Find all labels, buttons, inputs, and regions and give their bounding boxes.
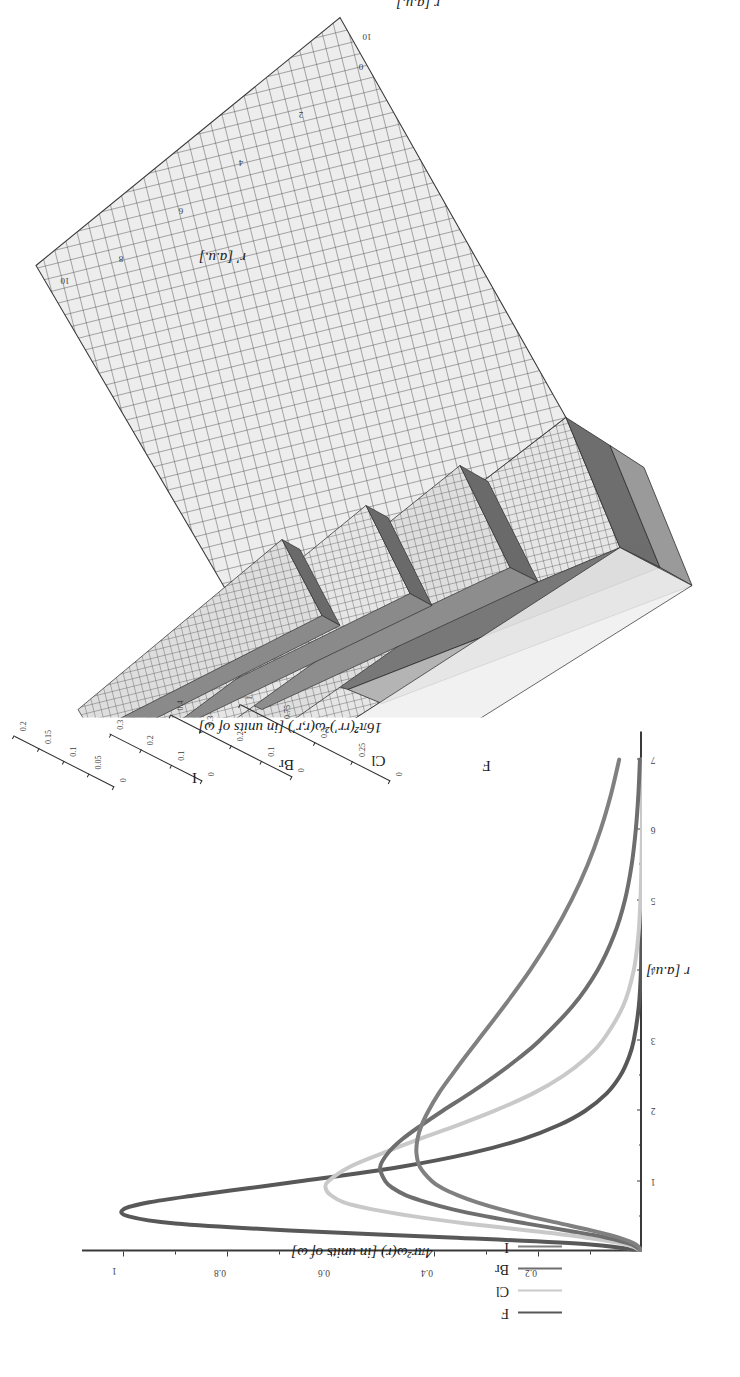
y-tick-label-1: 1 — [112, 1265, 134, 1275]
rprime-tick-10: 10 — [61, 276, 70, 286]
legend-item-I[interactable]: I — [495, 1235, 562, 1257]
curve-Br — [380, 759, 642, 1251]
curve-I — [416, 759, 642, 1251]
axis-r-label-3d: r [a.u.] — [396, 0, 440, 11]
legend-item-F[interactable]: F — [495, 1301, 562, 1323]
curve-Cl — [325, 759, 642, 1251]
y-tick-1.0 — [123, 1251, 124, 1256]
surface-plot-graphic — [10, 5, 730, 717]
legend-item-Br[interactable]: Br — [495, 1257, 562, 1279]
figure-stage: 16π̂²(rr')²ω(r,r') [in units of ω] — [0, 0, 740, 1377]
legend-swatch-F — [518, 1311, 562, 1314]
x-tick-label-7: 7 — [651, 754, 656, 764]
legend-label-F: F — [501, 1304, 509, 1320]
legend-label-I: I — [504, 1238, 509, 1254]
line-curves — [82, 731, 642, 1251]
y-tick-label-0.8: 0.8 — [214, 1267, 240, 1277]
rprime-tick-2: 2 — [299, 110, 304, 120]
panel-2d-lines: 0.2 0.4 0.6 0.8 1 1 2 3 4 5 6 — [42, 697, 702, 1337]
x-axis-label: r [a.u.] — [646, 962, 690, 979]
legend-swatch-I — [518, 1245, 562, 1248]
r-tick-10-3d: 10 — [363, 32, 372, 42]
y-tick-0.4 — [434, 1251, 435, 1256]
legend-swatch-Cl — [518, 1289, 562, 1292]
y-tick-0.8 — [227, 1251, 228, 1256]
legend-swatch-Br — [518, 1267, 562, 1270]
x-tick-label-5: 5 — [651, 895, 656, 905]
panel-3d-surface: 16π̂²(rr')²ω(r,r') [in units of ω] — [10, 5, 730, 717]
rprime-tick-4: 4 — [239, 158, 244, 168]
x-tick-label-3: 3 — [651, 1035, 656, 1045]
rprime-tick-0: 0 — [359, 62, 364, 72]
y-axis-label: 4πr²ω(r) [in units of ω] — [291, 1244, 433, 1261]
plot-area: 0.2 0.4 0.6 0.8 1 1 2 3 4 5 6 — [82, 731, 642, 1251]
rprime-tick-6: 6 — [179, 206, 184, 216]
legend: F Cl Br I — [495, 1235, 562, 1323]
y-tick-label-0.6: 0.6 — [318, 1267, 344, 1277]
legend-label-Cl: Cl — [496, 1282, 509, 1298]
rprime-tick-8: 8 — [119, 254, 124, 264]
figure-page: 16π̂²(rr')²ω(r,r') [in units of ω] — [0, 0, 740, 1377]
x-tick-label-6: 6 — [651, 824, 656, 834]
axis-rprime-label: r' [a.u.] — [199, 248, 246, 265]
legend-item-Cl[interactable]: Cl — [495, 1279, 562, 1301]
y-tick-label-0.4: 0.4 — [421, 1267, 447, 1277]
z-tick-I-02: 0.2 — [19, 721, 28, 731]
x-tick-label-2: 2 — [651, 1105, 656, 1115]
legend-label-Br: Br — [495, 1260, 509, 1276]
x-tick-label-1: 1 — [651, 1176, 656, 1186]
